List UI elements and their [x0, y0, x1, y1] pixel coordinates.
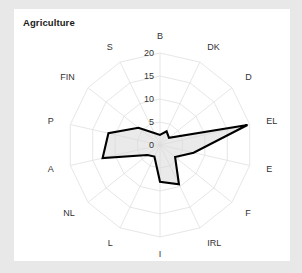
- radar-chart-svg: BDKDELEFIRLILNLAPFINS 05101520: [14, 9, 290, 261]
- screenshot-root: Agriculture BDKDELEFIRLILNLAPFINS 051015…: [0, 0, 302, 273]
- radar-axis-label-s: S: [107, 42, 113, 52]
- radar-axis-label-fin: FIN: [60, 72, 75, 82]
- radar-tick-label: 5: [149, 117, 154, 127]
- radar-axis-label-irl: IRL: [207, 238, 221, 248]
- radar-axis-label-p: P: [48, 116, 54, 126]
- radar-axis-label-a: A: [48, 164, 54, 174]
- radar-tick-label: 10: [144, 94, 154, 104]
- chart-card: Agriculture BDKDELEFIRLILNLAPFINS 051015…: [14, 9, 290, 261]
- radar-axis-label-i: I: [159, 249, 162, 259]
- radar-axis-label-dk: DK: [207, 42, 220, 52]
- radar-tick-label: 20: [144, 48, 154, 58]
- radar-axis-label-f: F: [245, 208, 251, 218]
- radar-chart: BDKDELEFIRLILNLAPFINS 05101520: [14, 9, 290, 261]
- radar-series-fill: [103, 125, 248, 184]
- radar-axis-label-nl: NL: [63, 208, 75, 218]
- radar-axis-label-d: D: [245, 72, 252, 82]
- radar-tick-label: 15: [144, 71, 154, 81]
- radar-area: [103, 125, 248, 184]
- radar-axis-label-l: L: [108, 238, 113, 248]
- radar-axis-label-e: E: [266, 164, 272, 174]
- radar-axis-label-el: EL: [266, 116, 277, 126]
- radar-tick-label: 0: [149, 140, 154, 150]
- radar-axis-label-b: B: [157, 31, 163, 41]
